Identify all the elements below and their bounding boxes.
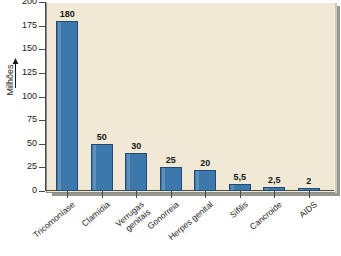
- x-tick-mark: [67, 191, 68, 198]
- bar-highlight: [231, 185, 234, 190]
- bars-layer: 180503025205,52,52: [46, 2, 334, 191]
- bar-slot: 50: [91, 2, 113, 191]
- bar-slot: 5,5: [229, 2, 251, 191]
- y-tick-mark: [39, 2, 45, 3]
- bar-highlight: [265, 188, 268, 190]
- y-tick-mark: [39, 191, 45, 192]
- y-tick-label: 75: [7, 115, 37, 124]
- x-tick-mark: [240, 191, 241, 198]
- y-tick-label: 25: [7, 162, 37, 171]
- x-tick-mark: [102, 191, 103, 198]
- y-tick-mark: [39, 167, 45, 168]
- bar-highlight: [58, 22, 61, 190]
- bar[interactable]: [91, 144, 113, 191]
- bar-slot: 2: [298, 2, 320, 191]
- x-tick-mark: [205, 191, 206, 198]
- x-tick-mark: [309, 191, 310, 198]
- bar-highlight: [196, 171, 199, 190]
- bar-value-label: 2,5: [268, 175, 281, 185]
- bar[interactable]: [56, 21, 78, 191]
- y-tick-label: 150: [7, 44, 37, 53]
- bar-slot: 25: [160, 2, 182, 191]
- bar-value-label: 50: [97, 132, 107, 142]
- bar-value-label: 30: [131, 141, 141, 151]
- y-tick-mark: [39, 26, 45, 27]
- y-tick-label: 50: [7, 139, 37, 148]
- bar-value-label: 5,5: [234, 172, 247, 182]
- y-tick-label: 0: [7, 186, 37, 195]
- bar-value-label: 180: [60, 9, 75, 19]
- x-tick-mark: [136, 191, 137, 198]
- y-tick-label: 100: [7, 92, 37, 101]
- bar[interactable]: [125, 153, 147, 191]
- bar-slot: 180: [56, 2, 78, 191]
- bar-slot: 20: [194, 2, 216, 191]
- y-tick-label: 175: [7, 21, 37, 30]
- bar[interactable]: [229, 184, 251, 191]
- bar[interactable]: [160, 167, 182, 191]
- y-tick-label: 200: [7, 0, 37, 6]
- y-tick-labels: 2001751501251007550250: [0, 0, 37, 192]
- y-tick-mark: [39, 49, 45, 50]
- y-tick-mark: [39, 73, 45, 74]
- category-label: Tricomoníase: [7, 200, 77, 256]
- x-tick-mark: [274, 191, 275, 198]
- y-tick-label: 125: [7, 68, 37, 77]
- y-tick-mark: [39, 144, 45, 145]
- y-tick-mark: [39, 97, 45, 98]
- x-tick-mark: [171, 191, 172, 198]
- bar-highlight: [93, 145, 96, 190]
- bar-value-label: 20: [200, 158, 210, 168]
- bar[interactable]: [194, 170, 216, 191]
- bar-value-label: 25: [166, 155, 176, 165]
- bar-highlight: [300, 189, 303, 190]
- bar-highlight: [127, 154, 130, 190]
- bar-highlight: [162, 168, 165, 190]
- y-tick-mark: [39, 120, 45, 121]
- bar-slot: 2,5: [263, 2, 285, 191]
- bar-value-label: 2: [306, 176, 311, 186]
- bar-chart: Milhões 2001751501251007550250 180503025…: [0, 0, 341, 256]
- bar-slot: 30: [125, 2, 147, 191]
